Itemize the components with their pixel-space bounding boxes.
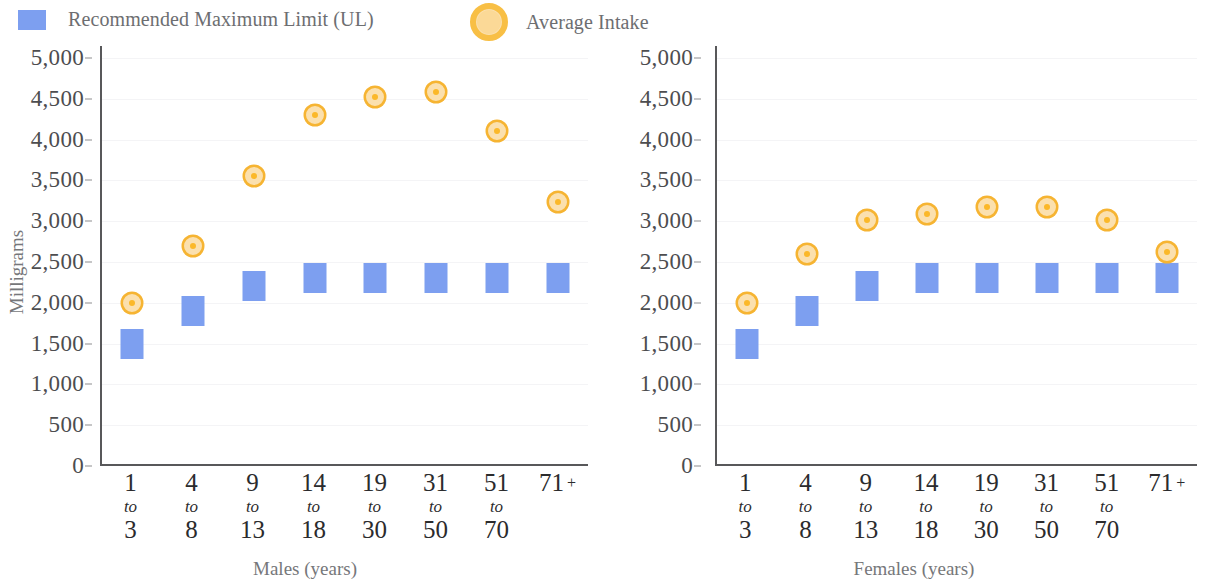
x-tick-label: 71+ [523, 470, 593, 495]
y-tick-label: 2,000 [607, 290, 693, 316]
y-tick-mark [85, 221, 92, 222]
data-point-average-intake [123, 294, 141, 312]
data-point-average-intake [1158, 243, 1176, 261]
data-point-average-intake [1098, 211, 1116, 229]
x-tick-label: 4to8 [157, 470, 227, 542]
gridline [717, 262, 1197, 263]
gridline [102, 384, 588, 385]
y-tick-mark [85, 58, 92, 59]
gridline [102, 303, 588, 304]
data-point-average-intake [427, 83, 445, 101]
gridline [717, 303, 1197, 304]
y-tick-mark [85, 262, 92, 263]
gridline [717, 58, 1197, 59]
x-tick-label: 19to30 [340, 470, 410, 542]
legend-item-recommended-maximum-limit: Recommended Maximum Limit (UL) [18, 8, 374, 31]
y-tick-mark [85, 425, 92, 426]
plot-area-males [100, 46, 588, 466]
y-tick-mark [694, 466, 701, 467]
y-tick-mark [694, 262, 701, 263]
data-point-recommended-limit [485, 263, 508, 293]
data-point-recommended-limit [736, 329, 759, 359]
data-point-recommended-limit [1156, 263, 1179, 293]
data-point-average-intake [549, 193, 567, 211]
data-point-average-intake [1038, 198, 1056, 216]
data-point-average-intake [798, 245, 816, 263]
gridline [102, 140, 588, 141]
y-tick-label: 2,500 [607, 249, 693, 275]
plot-area-females [715, 46, 1197, 466]
y-tick-label: 4,000 [607, 127, 693, 153]
data-point-recommended-limit [364, 263, 387, 293]
data-point-recommended-limit [1096, 263, 1119, 293]
y-tick-label: 1,500 [0, 331, 84, 357]
y-tick-mark [694, 58, 701, 59]
y-axis-ticks-males: 05001,0001,5002,0002,5003,0003,5004,0004… [0, 46, 92, 466]
y-tick-label: 1,000 [607, 371, 693, 397]
gridline [717, 99, 1197, 100]
y-tick-label: 500 [607, 412, 693, 438]
y-tick-label: 4,500 [0, 86, 84, 112]
data-point-recommended-limit [121, 329, 144, 359]
y-tick-mark [694, 98, 701, 99]
y-tick-label: 5,000 [0, 45, 84, 71]
orange-circle-swatch-icon [470, 3, 508, 41]
y-tick-mark [694, 425, 701, 426]
chart-panel-males: Milligrams 05001,0001,5002,0002,5003,000… [0, 46, 610, 587]
gridline [717, 344, 1197, 345]
data-point-average-intake [978, 198, 996, 216]
y-tick-mark [85, 139, 92, 140]
y-tick-mark [85, 180, 92, 181]
data-point-recommended-limit [976, 263, 999, 293]
gridline [102, 344, 588, 345]
y-tick-label: 2,000 [0, 290, 84, 316]
gridline [717, 180, 1197, 181]
y-tick-mark [694, 343, 701, 344]
gridline [717, 425, 1197, 426]
x-tick-label: 1to3 [96, 470, 166, 542]
x-tick-label: 31to50 [401, 470, 471, 542]
y-tick-mark [694, 221, 701, 222]
data-point-recommended-limit [303, 263, 326, 293]
y-tick-label: 3,500 [607, 167, 693, 193]
x-axis-title-females: Females (years) [609, 558, 1219, 580]
x-tick-label: 71+ [1132, 470, 1202, 495]
data-point-average-intake [918, 205, 936, 223]
data-point-recommended-limit [796, 296, 819, 326]
legend-label-recommended-maximum-limit: Recommended Maximum Limit (UL) [68, 8, 374, 31]
data-point-average-intake [738, 294, 756, 312]
data-point-average-intake [245, 167, 263, 185]
y-tick-mark [85, 384, 92, 385]
y-tick-mark [85, 466, 92, 467]
data-point-recommended-limit [242, 271, 265, 301]
data-point-recommended-limit [1036, 263, 1059, 293]
y-tick-label: 4,500 [607, 86, 693, 112]
legend-item-average-intake: Average Intake [470, 3, 649, 41]
data-point-average-intake [306, 106, 324, 124]
y-tick-label: 1,000 [0, 371, 84, 397]
y-tick-label: 2,500 [0, 249, 84, 275]
y-tick-label: 5,000 [607, 45, 693, 71]
y-tick-mark [694, 302, 701, 303]
gridline [717, 384, 1197, 385]
y-tick-mark [85, 343, 92, 344]
data-point-average-intake [858, 211, 876, 229]
x-axis-ticks-females: 1to34to89to1314to1819to3031to5051to7071+ [609, 470, 1219, 550]
data-point-average-intake [366, 88, 384, 106]
y-tick-label: 3,500 [0, 167, 84, 193]
x-tick-label: 51to70 [462, 470, 532, 542]
y-tick-mark [85, 98, 92, 99]
y-tick-label: 1,500 [607, 331, 693, 357]
data-point-recommended-limit [182, 296, 205, 326]
gridline [102, 221, 588, 222]
y-axis-ticks-females: 05001,0001,5002,0002,5003,0003,5004,0004… [609, 46, 701, 466]
gridline [102, 425, 588, 426]
gridline [102, 262, 588, 263]
y-tick-label: 4,000 [0, 127, 84, 153]
blue-square-swatch-icon [18, 10, 46, 30]
x-axis-title-males: Males (years) [0, 558, 610, 580]
gridline [717, 221, 1197, 222]
y-tick-mark [694, 139, 701, 140]
data-point-average-intake [184, 237, 202, 255]
legend-label-average-intake: Average Intake [526, 11, 649, 34]
